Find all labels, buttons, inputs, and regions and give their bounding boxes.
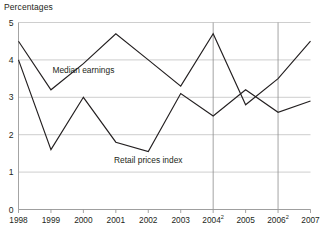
y-tick-label-5: 5 <box>9 18 14 28</box>
x-tick-superscript-2006: 2 <box>286 214 289 220</box>
x-tick-label-group-2006: 20062 <box>267 214 289 225</box>
x-tick-label-2007: 2007 <box>301 215 320 225</box>
x-tick-label-2003: 2003 <box>171 215 190 225</box>
x-tick-label-group-1998: 1998 <box>9 215 28 225</box>
y-tick-label-3: 3 <box>9 92 14 102</box>
x-tick-label-group-2002: 2002 <box>139 215 158 225</box>
vertical-reference-lines-group <box>213 23 278 210</box>
x-tick-label-group-1999: 1999 <box>42 215 61 225</box>
line-chart-plot: 012345 199819992000200120022003200422005… <box>0 0 320 238</box>
chart-container: Percentages 012345 199819992000200120022… <box>0 0 320 238</box>
x-tick-label-2002: 2002 <box>139 215 158 225</box>
x-tick-label-group-2005: 2005 <box>236 215 255 225</box>
x-tick-label-group-2004: 20042 <box>202 214 224 225</box>
gridlines-group <box>19 23 311 210</box>
y-tick-label-0: 0 <box>9 205 14 215</box>
y-axis-tick-labels: 012345 <box>9 18 14 215</box>
x-tick-label-group-2000: 2000 <box>74 215 93 225</box>
series-group <box>19 34 311 152</box>
y-tick-label-4: 4 <box>9 55 14 65</box>
axes-group <box>19 23 311 210</box>
x-tick-label-1999: 1999 <box>42 215 61 225</box>
x-tick-label-2006: 20062 <box>267 214 289 225</box>
x-tick-label-2000: 2000 <box>74 215 93 225</box>
x-tick-label-group-2007: 2007 <box>301 215 320 225</box>
x-axis-tick-labels: 1998199920002001200220032004220052006220… <box>9 214 320 225</box>
x-tick-superscript-2004: 2 <box>221 214 224 220</box>
annotation-median-earnings: Median earnings <box>52 65 114 75</box>
tick-marks-group <box>19 210 311 214</box>
x-tick-label-group-2003: 2003 <box>171 215 190 225</box>
x-tick-label-2001: 2001 <box>107 215 126 225</box>
y-tick-label-2: 2 <box>9 130 14 140</box>
x-tick-label-2004: 20042 <box>202 214 224 225</box>
y-tick-label-1: 1 <box>9 167 14 177</box>
annotation-retail-prices-index: Retail prices index <box>114 155 183 165</box>
x-tick-label-1998: 1998 <box>9 215 28 225</box>
x-tick-label-2005: 2005 <box>236 215 255 225</box>
x-tick-label-group-2001: 2001 <box>107 215 126 225</box>
